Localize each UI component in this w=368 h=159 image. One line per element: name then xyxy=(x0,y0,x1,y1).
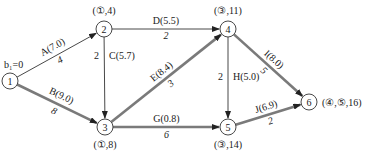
node-label-3: 3 xyxy=(103,122,108,133)
start-label: b₁=0 xyxy=(4,59,23,70)
edge-weight-I: 5 xyxy=(259,65,270,77)
edge-line-C xyxy=(104,37,105,118)
edge-A: A(7.0)4 xyxy=(17,33,96,77)
node-6: 6(④,⑤,16) xyxy=(301,94,362,110)
nodes-layer: 12(①,4)3(①,8)4(③,11)5(③,14)6(④,⑤,16) xyxy=(2,5,362,151)
node-label-2: 2 xyxy=(102,24,107,35)
edges-layer: A(7.0)4B(9.0)8C(5.7)2D(5.5)2E(8.4)3G(0.8… xyxy=(17,15,302,140)
edge-weight-H: 2 xyxy=(218,71,223,82)
node-label-4: 4 xyxy=(226,24,231,35)
node-3: 3(①,8) xyxy=(93,119,116,151)
edge-weight-G: 6 xyxy=(164,129,169,140)
edge-G: G(0.8)6 xyxy=(113,113,219,140)
edge-D: D(5.5)2 xyxy=(112,15,219,41)
edge-weight-C: 2 xyxy=(94,50,99,61)
network-diagram: A(7.0)4B(9.0)8C(5.7)2D(5.5)2E(8.4)3G(0.8… xyxy=(0,0,368,159)
edge-label-H: H(5.0) xyxy=(233,71,259,83)
edge-label-A: A(7.0) xyxy=(38,35,67,58)
edge-weight-A: 4 xyxy=(55,54,65,66)
node-1: 1 xyxy=(2,73,18,89)
edge-label-G: G(0.8) xyxy=(153,113,179,125)
node-2: 2(①,4) xyxy=(92,5,115,37)
edge-weight-J: 2 xyxy=(266,115,274,127)
edge-E: E(8.4)3 xyxy=(111,35,221,122)
node-mark-2: (①,4) xyxy=(92,5,115,17)
node-mark-5: (③,14) xyxy=(214,139,242,151)
edge-label-C: C(5.7) xyxy=(109,50,135,62)
edge-weight-B: 8 xyxy=(50,105,59,117)
edge-I: I(8.0)5 xyxy=(234,34,302,96)
node-mark-4: (③,11) xyxy=(214,5,242,17)
node-label-6: 6 xyxy=(307,97,312,108)
edge-line-E xyxy=(111,35,221,122)
node-mark-3: (①,8) xyxy=(93,139,116,151)
edge-label-D: D(5.5) xyxy=(153,15,179,27)
edge-weight-E: 3 xyxy=(164,77,176,89)
edge-J: J(6.9)2 xyxy=(236,98,301,127)
node-4: 4(③,11) xyxy=(214,5,242,37)
edge-B: B(9.0)8 xyxy=(17,84,97,123)
node-mark-6: (④,⑤,16) xyxy=(322,97,362,109)
node-label-1: 1 xyxy=(8,76,13,87)
edge-label-B: B(9.0) xyxy=(47,85,75,107)
edge-line-I xyxy=(234,34,302,96)
edge-weight-D: 2 xyxy=(164,30,169,41)
node-label-5: 5 xyxy=(226,122,231,133)
edge-C: C(5.7)2 xyxy=(94,37,135,118)
